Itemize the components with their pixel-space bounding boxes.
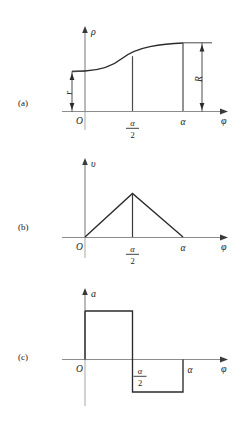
- y-axis-label-b: υ: [91, 158, 96, 169]
- x-axis-label-b: φ: [221, 241, 227, 252]
- dimension-arrowhead-r-top: [70, 73, 75, 80]
- tick-label-alpha-half-c: α 2: [134, 366, 147, 388]
- origin-label-c: O: [76, 364, 83, 374]
- tick-alpha-half-numerator-a: α: [130, 118, 135, 128]
- dimension-arrowhead-r-bottom: [70, 103, 75, 110]
- tick-alpha-half-denominator-c: 2: [138, 378, 142, 388]
- panel-c-plot: a φ O α 2 α: [0, 278, 246, 422]
- y-axis-arrowhead-c: [82, 288, 88, 295]
- origin-label-a: O: [76, 116, 83, 126]
- y-axis-label-a: ρ: [90, 26, 96, 37]
- tick-alpha-half-numerator-c: α: [138, 366, 143, 376]
- tick-label-alpha-c: α: [188, 365, 194, 375]
- dimension-label-r: r: [64, 91, 74, 95]
- tick-label-alpha-a: α: [181, 117, 187, 127]
- panel-a-plot: ρ φ O r R α 2 α: [0, 0, 246, 140]
- dimension-label-R: R: [194, 76, 204, 83]
- dimension-arrowhead-R-top: [200, 45, 205, 52]
- y-axis-arrowhead-a: [82, 26, 88, 33]
- x-axis-label-a: φ: [221, 115, 227, 126]
- tick-label-alpha-half-a: α 2: [126, 118, 139, 140]
- tick-label-alpha-b: α: [181, 243, 187, 253]
- x-axis-arrowhead-a: [220, 109, 228, 115]
- y-axis-label-c: a: [91, 288, 96, 299]
- dimension-arrowhead-R-bottom: [200, 103, 205, 110]
- y-axis-arrowhead-b: [82, 158, 88, 165]
- velocity-triangle-curve: [85, 194, 183, 238]
- kinematic-diagram-figure: (a) (b) (c) ρ φ O r R: [0, 0, 246, 422]
- x-axis-arrowhead-b: [220, 235, 228, 241]
- x-axis-arrowhead-c: [220, 357, 228, 363]
- tick-alpha-half-numerator-b: α: [130, 244, 135, 254]
- acceleration-square-wave: [85, 311, 183, 392]
- rho-curve: [72, 43, 183, 72]
- tick-alpha-half-denominator-b: 2: [130, 256, 134, 266]
- tick-label-alpha-half-b: α 2: [126, 244, 139, 266]
- origin-label-b: O: [76, 242, 83, 252]
- tick-alpha-half-denominator-a: 2: [130, 130, 134, 140]
- panel-b-plot: υ φ O α 2 α: [0, 148, 246, 278]
- x-axis-label-c: φ: [221, 363, 227, 374]
